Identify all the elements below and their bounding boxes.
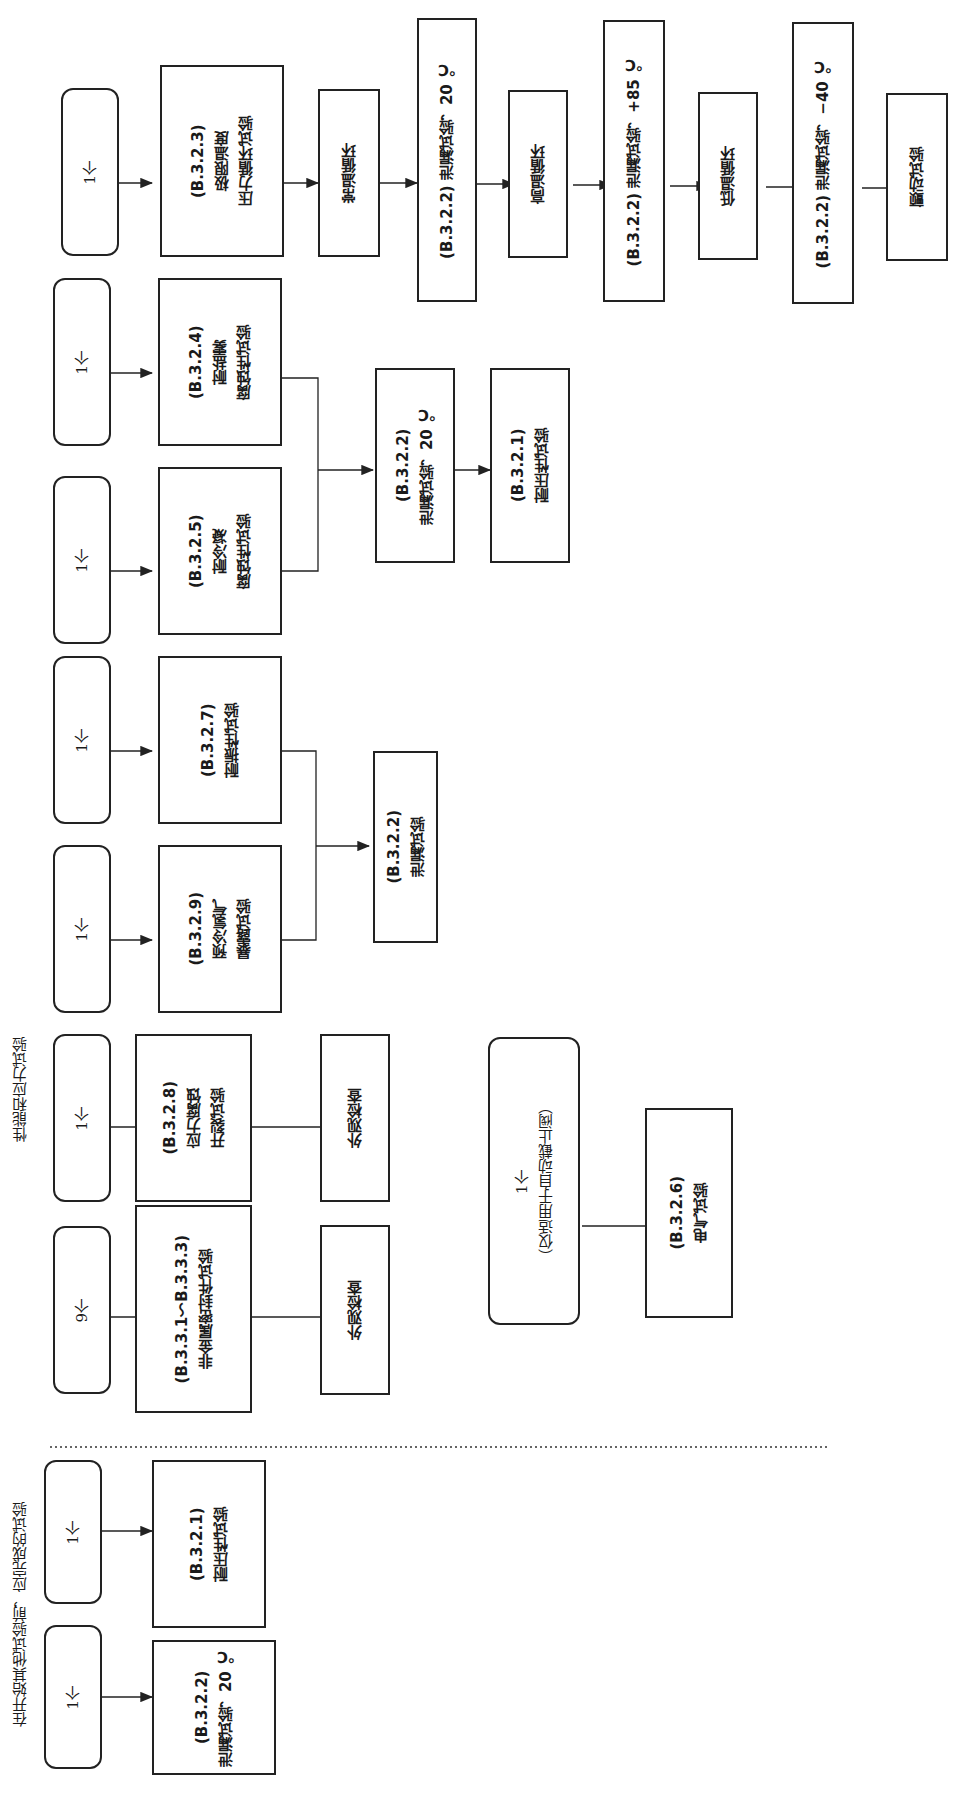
test-box-salt-spray: (B.3.2.4) 耐盐雾 腐蚀性试验 (158, 278, 282, 446)
test-label: (B.3.2.1) 耐压性试验 (506, 428, 554, 503)
test-box-leak-20c: (B.3.2.2) 泄漏试验，20 ℃ (152, 1640, 276, 1775)
qty-label: 1个 (78, 160, 102, 185)
test-label: (B.3.2.2) 泄漏试验 (382, 810, 430, 884)
step-box-low-temp-cycle: 低温循环 (698, 92, 758, 260)
test-box-condensation-corrosion: (B.3.2.5) 耐冷凝 腐蚀性试验 (158, 467, 282, 635)
step-box-ambient-cycle: 常温循环 (318, 89, 380, 257)
qty-label: 9个 (70, 1298, 94, 1323)
test-box-electrical: (B.3.2.6) 电气试验 (645, 1108, 733, 1318)
test-box-nonmetal-seal: (B.3.3.1～B.3.3.3) 非金属密封件试验 (135, 1205, 252, 1413)
test-label: (B.3.2.5) 耐冷凝 腐蚀性试验 (184, 514, 256, 589)
test-label: (B.3.2.2) 泄漏试验，20 ℃ (391, 406, 439, 525)
qty-box: 1个 (44, 1625, 102, 1769)
qty-label: 1个 (70, 917, 94, 942)
step-box-leak-85c: (B.3.2.2) 泄漏试验，+85 ℃ (603, 20, 665, 302)
test-label: (B.3.2.3) 极限温度 压力循环试验 (186, 116, 258, 206)
test-label: (B.3.2.1) 耐压性试验 (185, 1507, 233, 1582)
test-box-pressure-resistance: (B.3.2.1) 耐压性试验 (490, 368, 570, 563)
test-label: (B.3.2.7) 耐振性试验 (196, 703, 244, 778)
step-box-leak-minus40c: (B.3.2.2) 泄漏试验，−40 ℃ (792, 22, 854, 304)
step-label: (B.3.2.2) 泄漏试验，20 ℃ (435, 61, 459, 259)
qty-label: 1个 (70, 548, 94, 573)
step-box-chatter-test: 颤动试验 (886, 93, 948, 261)
qty-box: 1个 (61, 88, 119, 256)
test-label: 外观检查 (343, 1280, 367, 1340)
test-box-leak: (B.3.2.2) 泄漏试验 (373, 751, 438, 943)
step-box-leak-20c: (B.3.2.2) 泄漏试验，20 ℃ (417, 18, 477, 302)
qty-label: 1个 (70, 728, 94, 753)
step-label: 高温循环 (526, 144, 550, 204)
step-label: (B.3.2.2) 泄漏试验，+85 ℃ (622, 56, 646, 266)
qty-label: 1个 (70, 350, 94, 375)
qty-box: 1个 (44, 1460, 102, 1604)
step-label: (B.3.2.2) 泄漏试验，−40 ℃ (811, 58, 835, 268)
test-label: (B.3.3.1～B.3.3.3) 非金属密封件试验 (170, 1235, 218, 1383)
test-box-leak-20c: (B.3.2.2) 泄漏试验，20 ℃ (375, 368, 455, 563)
test-label: (B.3.2.9) 预冷氢气 暴露试验 (184, 892, 256, 966)
qty-box: 1个 (53, 278, 111, 446)
test-label: (B.3.2.4) 耐盐雾 腐蚀性试验 (184, 325, 256, 400)
visual-inspection-box: 外观检查 (320, 1034, 390, 1202)
qty-box: 1个 (53, 1034, 111, 1202)
test-label: (B.3.2.6) 电气试验 (665, 1176, 713, 1250)
qty-box: 9个 (53, 1226, 111, 1394)
test-label: (B.3.2.8) 应力腐蚀 开裂试验 (158, 1081, 230, 1155)
qty-label: 1个 (61, 1520, 85, 1545)
step-label: 颤动试验 (905, 147, 929, 207)
qty-box-auto-shutoff: 1个 （仅适用于自动截止阀） (488, 1037, 580, 1325)
section-label-performance: 性能和应力试验 (8, 1010, 32, 1170)
visual-inspection-box: 外观检查 (320, 1225, 390, 1395)
section-label-pre-tests: 在开始其他试验前，应完成的试验 (8, 1420, 32, 1810)
step-box-high-temp-cycle: 高温循环 (508, 90, 568, 258)
qty-label: 1个 (61, 1685, 85, 1710)
test-label: 外观检查 (343, 1088, 367, 1148)
test-box-stress-corrosion: (B.3.2.8) 应力腐蚀 开裂试验 (135, 1034, 252, 1202)
qty-box: 1个 (53, 656, 111, 824)
qty-box: 1个 (53, 845, 111, 1013)
step-label: 常温循环 (337, 143, 361, 203)
test-box-pressure-resistance: (B.3.2.1) 耐压性试验 (152, 1460, 266, 1628)
test-box-vibration: (B.3.2.7) 耐振性试验 (158, 656, 282, 824)
qty-box: 1个 (53, 476, 111, 644)
qty-label: 1个 （仅适用于自动截止阀） (510, 1099, 558, 1264)
qty-label: 1个 (70, 1106, 94, 1131)
test-label: (B.3.2.2) 泄漏试验，20 ℃ (190, 1648, 238, 1767)
test-box-extreme-temp-pressure-cycle: (B.3.2.3) 极限温度 压力循环试验 (160, 65, 284, 257)
test-box-hydrogen-exposure: (B.3.2.9) 预冷氢气 暴露试验 (158, 845, 282, 1013)
step-label: 低温循环 (716, 146, 740, 206)
